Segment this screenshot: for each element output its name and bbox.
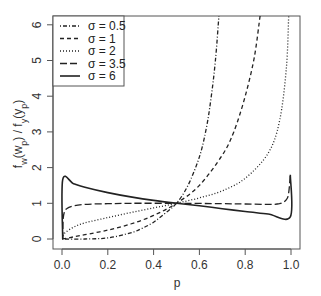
y-tick-label: 3: [30, 128, 44, 135]
series-line-4: [62, 175, 292, 239]
x-tick-label: 0.8: [237, 258, 254, 272]
y-tick-label: 0: [30, 235, 44, 242]
legend: σ = 0.5σ = 1σ = 2σ = 3.5σ = 6: [53, 16, 126, 86]
y-axis-title: fw(wp) / fy(yp): [11, 100, 29, 168]
x-tick-label: 1.0: [283, 258, 300, 272]
y-axis-title-text: fw(wp) / fy(yp): [11, 100, 29, 168]
y-tick-label: 4: [30, 93, 44, 100]
legend-label: σ = 6: [88, 69, 116, 83]
chart: 0.00.20.40.60.81.0 0123456 p fw(wp) / fy…: [0, 0, 321, 296]
x-axis-title: p: [174, 276, 181, 290]
series-line-3: [63, 175, 291, 239]
y-tick-label: 6: [30, 21, 44, 28]
x-tick-label: 0.0: [54, 258, 71, 272]
x-tick-label: 0.2: [99, 258, 116, 272]
y-tick-label: 5: [30, 57, 44, 64]
x-axis: 0.00.20.40.60.81.0: [54, 249, 300, 272]
y-axis: 0123456: [30, 21, 53, 242]
y-tick-label: 1: [30, 200, 44, 207]
x-tick-label: 0.6: [191, 258, 208, 272]
x-tick-label: 0.4: [145, 258, 162, 272]
y-tick-label: 2: [30, 164, 44, 171]
